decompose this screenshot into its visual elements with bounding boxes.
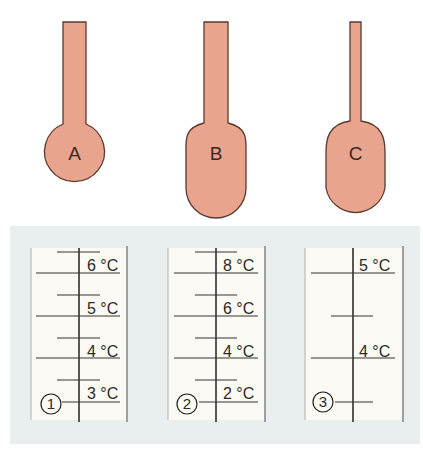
- thermometer-b: B: [186, 22, 246, 218]
- scale-1-label-2: 4 °C: [87, 343, 118, 360]
- scale-3: 5 °C 4 °C 3: [305, 246, 403, 422]
- thermometer-c: C: [326, 22, 385, 213]
- scale-3-label-1: 4 °C: [359, 343, 390, 360]
- thermometer-a-label: A: [68, 143, 81, 164]
- thermometer-b-label: B: [210, 143, 223, 164]
- scale-3-label-0: 5 °C: [359, 257, 390, 274]
- scale-1-label-1: 5 °C: [87, 300, 118, 317]
- scale-1: 6 °C 5 °C 4 °C 3 °C 1: [31, 246, 127, 422]
- scale-2: 8 °C 6 °C 4 °C 2 °C 2: [168, 246, 265, 422]
- thermometer-diagram: A B C 6 °C 5 °C 4 °C 3 °C 1: [0, 0, 423, 456]
- thermometer-c-label: C: [349, 143, 363, 164]
- thermometer-a: A: [45, 22, 105, 182]
- scale-2-number: 2: [183, 395, 191, 412]
- scale-2-label-1: 6 °C: [223, 300, 254, 317]
- scale-3-number: 3: [319, 393, 327, 410]
- scale-1-number: 1: [47, 395, 55, 412]
- scale-1-label-0: 6 °C: [87, 257, 118, 274]
- scale-2-label-3: 2 °C: [223, 385, 254, 402]
- scale-2-label-0: 8 °C: [223, 257, 254, 274]
- scale-1-label-3: 3 °C: [87, 385, 118, 402]
- scale-2-label-2: 4 °C: [223, 343, 254, 360]
